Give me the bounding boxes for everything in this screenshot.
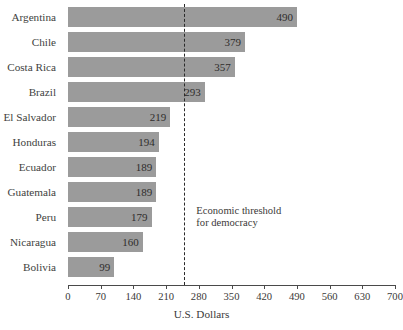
bar-value-label: 357 — [205, 57, 231, 77]
x-tick-label: 70 — [95, 291, 106, 303]
x-tick — [362, 285, 363, 289]
x-tick — [133, 285, 134, 289]
category-label-honduras: Honduras — [13, 137, 57, 148]
category-label-brazil: Brazil — [29, 87, 56, 98]
x-tick-label: 0 — [65, 291, 70, 303]
x-tick — [264, 285, 265, 289]
x-axis-title-text: U.S. Dollars — [174, 308, 230, 320]
x-tick — [101, 285, 102, 289]
threshold-label-line2: for democracy — [196, 217, 281, 229]
category-label-guatemala: Guatemala — [8, 187, 56, 198]
category-label-costa-rica: Costa Rica — [7, 62, 56, 73]
x-tick-label: 700 — [387, 291, 403, 303]
bar-value-label: 194 — [129, 132, 155, 152]
x-tick — [199, 285, 200, 289]
category-label-nicaragua: Nicaragua — [10, 237, 56, 248]
x-tick — [297, 285, 298, 289]
x-tick-label: 490 — [289, 291, 305, 303]
category-label-chile: Chile — [32, 37, 56, 48]
bar-value-label: 160 — [113, 232, 139, 252]
bar-argentina — [68, 7, 297, 27]
x-tick-label: 350 — [224, 291, 240, 303]
bar-value-label: 293 — [175, 82, 201, 102]
category-label-bolivia: Bolivia — [23, 262, 56, 273]
x-tick-label: 280 — [191, 291, 207, 303]
x-tick-label: 210 — [158, 291, 174, 303]
x-axis-title: U.S. Dollars — [0, 308, 403, 320]
category-label-argentina: Argentina — [11, 12, 56, 23]
economic-threshold-label: Economic threshold for democracy — [196, 205, 281, 230]
bar-chart: Argentina Chile Costa Rica Brazil El Sal… — [0, 0, 403, 330]
category-label-ecuador: Ecuador — [19, 162, 56, 173]
x-tick — [232, 285, 233, 289]
category-label-el-salvador: El Salvador — [3, 112, 56, 123]
threshold-label-line1: Economic threshold — [196, 205, 281, 217]
x-tick — [68, 285, 69, 289]
plot-area: 49037935729321919418918917916099 Economi… — [68, 0, 395, 285]
economic-threshold-line — [184, 4, 185, 285]
bar-value-label: 189 — [126, 182, 152, 202]
x-tick — [330, 285, 331, 289]
bar-value-label: 179 — [122, 207, 148, 227]
bar-value-label: 379 — [215, 32, 241, 52]
category-label-peru: Peru — [35, 212, 56, 223]
x-tick-label: 560 — [322, 291, 338, 303]
bar-value-label: 219 — [140, 107, 166, 127]
bar-value-label: 99 — [84, 257, 110, 277]
bar-value-label: 490 — [267, 7, 293, 27]
x-tick-label: 140 — [125, 291, 141, 303]
x-tick — [395, 285, 396, 289]
bar-value-label: 189 — [126, 157, 152, 177]
x-tick-label: 630 — [354, 291, 370, 303]
x-tick — [166, 285, 167, 289]
x-tick-label: 420 — [256, 291, 272, 303]
category-axis: Argentina Chile Costa Rica Brazil El Sal… — [0, 0, 64, 290]
